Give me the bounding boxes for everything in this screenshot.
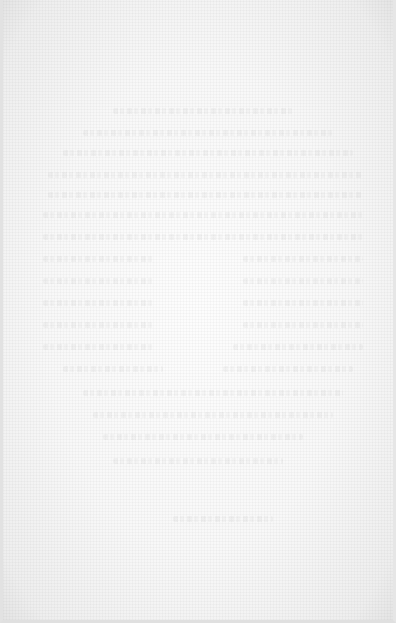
faded-text-line: [83, 130, 333, 136]
faded-text-line: [43, 344, 153, 350]
faded-text-line: [48, 192, 363, 198]
faded-text-line: [243, 322, 363, 328]
faded-text-line: [113, 458, 283, 464]
faded-text-line: [93, 412, 333, 418]
faded-text-line: [43, 234, 363, 240]
faded-text-line: [103, 434, 303, 440]
document-page: [0, 0, 396, 623]
faded-text-line: [83, 390, 343, 396]
faded-text-line: [233, 344, 363, 350]
faded-text-line: [223, 366, 353, 372]
faded-text-line: [43, 322, 153, 328]
faded-text-area: [3, 0, 393, 620]
faded-text-line: [43, 278, 153, 284]
faded-text-line: [243, 278, 363, 284]
faded-text-line: [43, 256, 153, 262]
faded-text-line: [48, 172, 363, 178]
faded-text-line: [243, 256, 363, 262]
faded-text-line: [63, 366, 163, 372]
faded-text-line: [43, 212, 363, 218]
faded-text-line: [63, 150, 353, 156]
faded-text-line: [113, 108, 293, 114]
faded-text-line: [243, 300, 363, 306]
faded-text-line: [173, 516, 273, 522]
faded-text-line: [43, 300, 153, 306]
